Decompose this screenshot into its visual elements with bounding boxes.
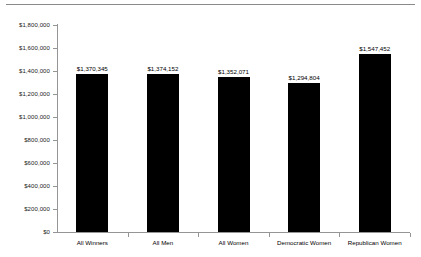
y-axis-tick-label: $1,200,000 [4,91,50,97]
bar [218,77,250,232]
y-axis-tick [53,94,57,95]
x-axis-category-label: Democratic Women [269,239,340,247]
y-axis-tick-label: $1,000,000 [4,114,50,120]
bar-value-label: $1,374,152 [128,65,199,72]
y-axis-tick-label: $600,000 [4,160,50,166]
x-axis-category-label: Republican Women [339,239,410,247]
y-axis-tick [53,25,57,26]
y-axis-tick-label: $1,800,000 [4,22,50,28]
x-axis-category-label: All Men [128,239,199,247]
x-axis-tick [128,233,129,237]
y-axis-tick [53,209,57,210]
y-axis-tick-label: $800,000 [4,137,50,143]
y-axis-tick-label: $0 [4,229,50,235]
y-axis-tick-label: $1,600,000 [4,45,50,51]
header-divider-rule [6,4,415,5]
x-axis-category-label: All Women [198,239,269,247]
y-axis-tick [53,117,57,118]
bar-value-label: $1,547,452 [339,45,410,52]
y-axis-tick-label: $400,000 [4,183,50,189]
y-axis-tick [53,232,57,233]
bar [359,54,391,232]
bar-value-label: $1,370,345 [57,65,128,72]
bar-value-label: $1,294,804 [269,74,340,81]
y-axis-tick [53,48,57,49]
x-axis-tick [198,233,199,237]
y-axis-tick-label: $200,000 [4,206,50,212]
x-axis-category-label: All Winners [57,239,128,247]
y-axis-tick-label: $1,400,000 [4,68,50,74]
bar-chart-figure: $0$200,000$400,000$600,000$800,000$1,000… [0,0,421,257]
y-axis-tick [53,163,57,164]
bar [147,74,179,232]
x-axis-line [57,232,410,233]
x-axis-tick [410,233,411,237]
y-axis-tick [53,140,57,141]
bar [76,74,108,232]
x-axis-tick [339,233,340,237]
y-axis-tick [53,186,57,187]
bar [288,83,320,232]
x-axis-tick [269,233,270,237]
bar-value-label: $1,352,071 [198,68,269,75]
y-axis-line [57,24,58,233]
